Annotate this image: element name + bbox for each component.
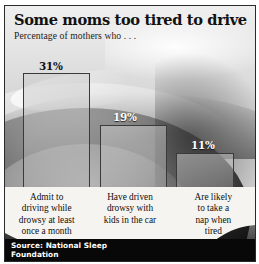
- category-label-1-line-2: kids in the car: [90, 215, 169, 226]
- category-label-0-line-3: once a month: [7, 226, 86, 237]
- bar-value-label-2: 11%: [191, 139, 215, 151]
- bar-value-label-1: 19%: [113, 111, 137, 123]
- infographic: Some moms too tired to drive Percentage …: [0, 0, 259, 264]
- bar-1: [100, 125, 167, 189]
- category-label-0: Admit to driving while drowsy at least o…: [5, 192, 88, 237]
- category-label-0-line-0: Admit to: [7, 192, 86, 203]
- category-labels: Admit to driving while drowsy at least o…: [5, 192, 255, 237]
- header: Some moms too tired to drive Percentage …: [14, 12, 249, 41]
- page-subtitle: Percentage of mothers who . . .: [14, 30, 249, 41]
- source-text: Source: National Sleep Foundation: [11, 242, 107, 259]
- category-label-1-line-1: drowsy with: [90, 203, 169, 214]
- page-title: Some moms too tired to drive: [14, 12, 249, 27]
- bar-value-label-0: 31%: [39, 60, 63, 72]
- category-label-0-line-1: driving while: [7, 203, 86, 214]
- category-label-1-line-0: Have driven: [90, 192, 169, 203]
- source-band: Source: National Sleep Foundation: [5, 239, 255, 261]
- category-label-2-line-2: nap when: [174, 215, 253, 226]
- category-label-2-line-3: tired: [174, 226, 253, 237]
- source-line-2: Foundation: [11, 251, 107, 260]
- bar-2: [176, 153, 234, 189]
- category-label-2: Are likely to take a nap when tired: [172, 192, 255, 237]
- bar-0: [23, 73, 90, 189]
- category-label-2-line-0: Are likely: [174, 192, 253, 203]
- category-label-2-line-1: to take a: [174, 203, 253, 214]
- category-label-0-line-2: drowsy at least: [7, 215, 86, 226]
- infographic-card: Some moms too tired to drive Percentage …: [4, 5, 256, 262]
- category-label-1: Have driven drowsy with kids in the car: [88, 192, 171, 237]
